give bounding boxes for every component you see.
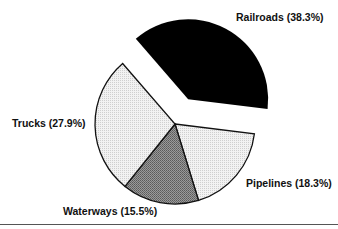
- label-pipelines: Pipelines (18.3%): [246, 177, 332, 189]
- label-railroads: Railroads (38.3%): [236, 11, 324, 23]
- pie-chart: [0, 0, 338, 229]
- pie-slice-railroads: [136, 19, 268, 109]
- label-trucks: Trucks (27.9%): [12, 117, 86, 129]
- label-waterways: Waterways (15.5%): [63, 205, 157, 217]
- bottom-rule: [0, 224, 338, 225]
